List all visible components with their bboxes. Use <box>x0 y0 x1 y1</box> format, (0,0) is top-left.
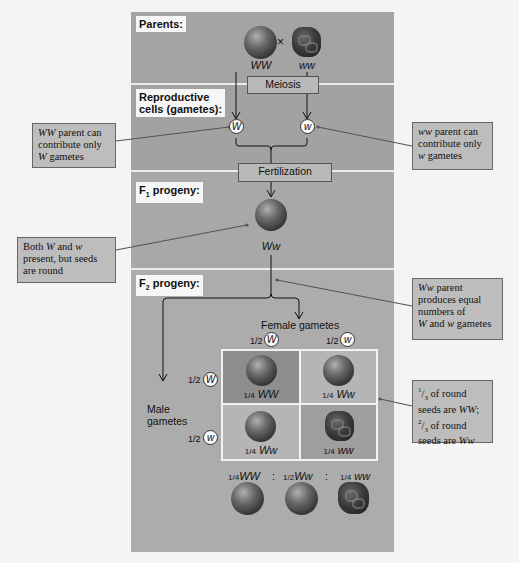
callout-line: 2/3 of round <box>418 416 487 436</box>
female-gamete-fraction-2: 1/2 <box>326 336 339 346</box>
f1-label: F1 progeny: <box>136 182 203 203</box>
cell-fraction: 1/4 <box>245 447 256 456</box>
f1-genotype: Ww <box>246 240 296 252</box>
callout-third-round: 1/3 of round seeds are WW; 2/3 of round … <box>412 380 493 443</box>
f1-label-rest: progeny: <box>150 184 200 196</box>
ratio-genotype: Ww <box>294 470 312 482</box>
callout-line: W and w gametes <box>418 318 497 330</box>
f2-label-f: F <box>139 277 146 289</box>
callout-line: contribute only <box>38 139 110 151</box>
round-pea-icon <box>323 355 354 386</box>
gamete-W-icon: W <box>229 119 244 134</box>
cell-genotype: Ww <box>336 388 354 400</box>
callout-line: seeds are WW; <box>418 404 487 416</box>
callout-line: are round <box>23 265 110 277</box>
gamete-w-icon: w <box>300 119 315 134</box>
callout-line: WW parent can <box>38 127 110 139</box>
callout-line: present, but seeds <box>23 253 110 265</box>
callout-line: produces equal <box>418 294 497 306</box>
ratio-separator: : <box>272 470 275 482</box>
cell-fraction: 1/4 <box>244 391 255 400</box>
female-gamete-fraction-1: 1/2 <box>250 336 263 346</box>
cell-fraction: 1/4 <box>323 447 334 456</box>
male-gamete-W-icon: W <box>203 372 218 387</box>
male-gamete-fraction-2: 1/2 <box>188 434 201 444</box>
wrinkled-pea-icon <box>338 482 369 514</box>
callout-line: ww parent can <box>418 126 487 138</box>
callout-both-present: Both W and w present, but seeds are roun… <box>17 237 116 283</box>
round-pea-icon <box>244 26 277 59</box>
ratio-separator: : <box>325 470 328 482</box>
punnett-cell-ww: 1/4 ww <box>301 405 376 459</box>
meiosis-box: Meiosis <box>247 76 319 94</box>
punnett-cell-label: 1/4 ww <box>301 444 376 456</box>
ratio-genotype: WW <box>239 470 260 482</box>
gametes-label-line2: cells (gametes): <box>139 103 222 115</box>
ratio-genotype: ww <box>354 470 370 482</box>
callout-line: numbers of <box>418 306 497 318</box>
wrinkled-pea-icon <box>325 411 354 441</box>
parent-genotype-left: WW <box>236 59 286 71</box>
callout-ww-parent-right: ww parent can contribute only w gametes <box>412 122 493 170</box>
punnett-cell-WW: 1/4 WW <box>223 351 299 403</box>
f1-round-pea-icon <box>255 199 287 231</box>
male-gamete-w-icon: w <box>203 430 218 445</box>
punnett-cell-label: 1/4 Ww <box>223 444 299 456</box>
punnett-cell-Ww-top: 1/4 Ww <box>301 351 376 403</box>
callout-line: Ww parent <box>418 282 497 294</box>
callout-line: seeds are Ww <box>418 435 487 447</box>
callout-ww-parent-equal: Ww parent produces equal numbers of W an… <box>412 278 503 340</box>
male-gametes-line2: gametes <box>147 415 187 427</box>
punnett-cell-Ww-bottom: 1/4 Ww <box>223 405 299 459</box>
round-pea-icon <box>285 482 318 515</box>
male-gametes-line1: Male <box>147 403 187 415</box>
wrinkled-pea-icon <box>292 27 321 57</box>
round-pea-icon <box>246 355 277 386</box>
female-gametes-label: Female gametes <box>261 319 339 331</box>
male-gamete-fraction-1: 1/2 <box>188 375 201 385</box>
male-gametes-label: Male gametes <box>147 403 187 427</box>
cross-symbol: × <box>277 36 284 48</box>
cell-fraction: 1/4 <box>322 391 333 400</box>
female-gamete-W-icon: W <box>264 332 279 347</box>
ratio-fraction: 1/2 <box>283 473 294 482</box>
callout-line: 1/3 of round <box>418 384 487 404</box>
female-gamete-w-icon: w <box>340 332 355 347</box>
f2-label: F2 progeny: <box>136 275 203 296</box>
ratio-fraction: 1/4 <box>340 473 351 482</box>
punnett-cell-label: 1/4 WW <box>223 388 299 400</box>
callout-line: w gametes <box>418 150 487 162</box>
cell-genotype: Ww <box>259 444 277 456</box>
callout-line: Both W and w <box>23 241 110 253</box>
parents-label: Parents: <box>136 16 186 32</box>
callout-line: W gametes <box>38 151 110 163</box>
parent-genotype-right: ww <box>282 59 332 71</box>
callout-ww-parent-left: WW parent can contribute only W gametes <box>32 123 116 168</box>
f1-label-f: F <box>139 184 146 196</box>
cell-genotype: ww <box>338 444 354 456</box>
fertilization-box: Fertilization <box>238 163 332 182</box>
gametes-label-line1: Reproductive <box>139 91 222 103</box>
gametes-label: Reproductive cells (gametes): <box>136 89 225 117</box>
cell-genotype: WW <box>258 388 279 400</box>
punnett-cell-label: 1/4 Ww <box>301 388 376 400</box>
callout-line: contribute only <box>418 138 487 150</box>
f2-label-rest: progeny: <box>150 277 200 289</box>
round-pea-icon <box>245 411 276 442</box>
ratio-fraction: 1/4 <box>228 473 239 482</box>
round-pea-icon <box>231 482 264 515</box>
